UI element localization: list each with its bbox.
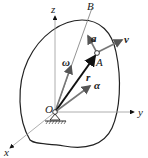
label-x: x	[3, 146, 9, 158]
x-axis	[10, 112, 55, 148]
v-vector	[98, 40, 122, 52]
rigid-body-diagram: z B y x O A ω α r v a	[0, 0, 148, 158]
label-v: v	[124, 33, 129, 45]
label-a-vector: a	[91, 32, 97, 44]
r-vector	[55, 56, 95, 112]
label-alpha: α	[94, 79, 101, 91]
label-y: y	[137, 106, 143, 118]
point-a	[95, 51, 100, 56]
label-z: z	[50, 3, 56, 15]
label-b: B	[87, 0, 94, 12]
label-a-point: A	[95, 56, 103, 68]
diagram-svg: z B y x O A ω α r v a	[0, 0, 148, 158]
label-r: r	[86, 71, 91, 83]
label-omega: ω	[62, 56, 70, 68]
label-o: O	[45, 103, 53, 115]
